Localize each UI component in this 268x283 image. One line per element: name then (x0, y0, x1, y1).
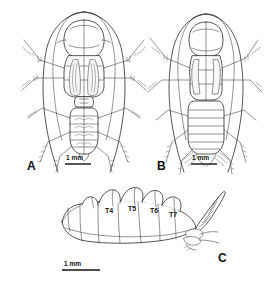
plate-canvas: A 1 mm (0, 0, 268, 283)
segment-label-t7: T7 (169, 211, 177, 218)
panel-c-letter: C (218, 251, 227, 265)
panel-b-letter: B (157, 159, 166, 173)
panel-a-scale-label: 1 mm (66, 154, 83, 161)
panel-b-scale-label: 1 mm (192, 154, 209, 161)
panel-a-letter: A (27, 159, 36, 173)
panel-b-thorax (190, 56, 223, 100)
panel-c-scale-label: 1 mm (64, 260, 81, 267)
segment-label-t4: T4 (105, 207, 113, 214)
figure-plate: A 1 mm (0, 0, 268, 283)
panel-b-head (189, 22, 223, 57)
segment-label-t6: T6 (150, 207, 158, 214)
segment-label-t5: T5 (128, 205, 136, 212)
